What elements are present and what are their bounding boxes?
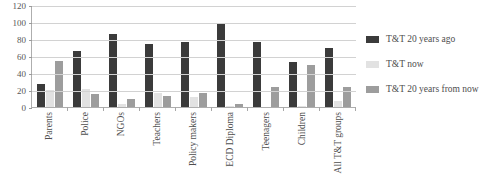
- bar: [118, 104, 126, 107]
- bar: [127, 99, 135, 108]
- x-tick-label: Police: [80, 112, 90, 136]
- y-tick-mark: [29, 23, 32, 24]
- x-label-cell: Teenagers: [248, 110, 284, 184]
- bar: [55, 61, 63, 107]
- bar: [163, 96, 171, 107]
- x-tick-label: Parents: [44, 112, 54, 140]
- x-tick-label: NGOs: [116, 112, 126, 136]
- bar: [217, 24, 225, 107]
- y-tick-label: 40: [17, 70, 26, 79]
- bar: [190, 97, 198, 107]
- bar: [109, 34, 117, 107]
- bar: [334, 101, 342, 107]
- x-tick-label: ECD Diploma: [225, 112, 235, 167]
- y-tick-mark: [29, 57, 32, 58]
- x-label-cell: Children: [284, 110, 320, 184]
- x-tick-label: Teachers: [152, 112, 162, 146]
- y-tick-mark: [29, 6, 32, 7]
- y-tick-label: 0: [22, 104, 27, 113]
- plot-area: [31, 6, 356, 108]
- x-label-cell: Police: [67, 110, 103, 184]
- medium-swatch-icon: [366, 86, 379, 93]
- bar: [307, 65, 315, 107]
- dark-swatch-icon: [366, 36, 379, 43]
- gridline: [32, 57, 356, 58]
- y-tick-label: 100: [13, 19, 27, 28]
- bar: [343, 87, 351, 107]
- legend-item[interactable]: T&T 20 years from now: [366, 80, 494, 98]
- bar: [154, 93, 162, 107]
- x-tick-label: Policy makers: [188, 112, 198, 166]
- y-axis: 020406080100120: [0, 0, 30, 108]
- legend-label: T&T 20 years ago: [386, 34, 455, 44]
- bar-chart: 020406080100120 ParentsPoliceNGOsTeacher…: [0, 0, 495, 184]
- bar: [73, 51, 81, 107]
- bar: [46, 90, 54, 107]
- x-label-cell: Parents: [31, 110, 67, 184]
- x-label-cell: All T&T groups: [320, 110, 356, 184]
- bar: [289, 62, 297, 107]
- chart-legend: T&T 20 years agoT&T nowT&T 20 years from…: [366, 30, 494, 105]
- gridline: [32, 74, 356, 75]
- y-tick-label: 20: [17, 87, 26, 96]
- x-tick-label: All T&T groups: [333, 112, 343, 173]
- y-tick-mark: [29, 108, 32, 109]
- x-label-cell: Teachers: [139, 110, 175, 184]
- x-tick-label: Teenagers: [261, 112, 271, 150]
- x-label-cell: ECD Diploma: [212, 110, 248, 184]
- bar: [91, 94, 99, 107]
- gridline: [32, 23, 356, 24]
- x-label-cell: Policy makers: [175, 110, 211, 184]
- x-axis: ParentsPoliceNGOsTeachersPolicy makersEC…: [31, 110, 356, 184]
- y-tick-label: 80: [17, 36, 26, 45]
- gridline: [32, 6, 356, 7]
- legend-item[interactable]: T&T 20 years ago: [366, 30, 494, 48]
- y-tick-mark: [29, 91, 32, 92]
- bar: [37, 84, 45, 107]
- bar: [145, 44, 153, 107]
- bar: [226, 106, 234, 107]
- bar: [199, 93, 207, 107]
- y-tick-label: 120: [13, 2, 27, 11]
- y-tick-mark: [29, 40, 32, 41]
- x-tick-label: Children: [297, 112, 307, 145]
- bar: [235, 104, 243, 107]
- gridline: [32, 40, 356, 41]
- y-tick-mark: [29, 74, 32, 75]
- x-label-cell: NGOs: [103, 110, 139, 184]
- bar: [298, 106, 306, 107]
- y-tick-label: 60: [17, 53, 26, 62]
- light-swatch-icon: [366, 61, 379, 68]
- legend-label: T&T now: [386, 59, 424, 69]
- legend-item[interactable]: T&T now: [366, 55, 494, 73]
- gridline: [32, 91, 356, 92]
- legend-label: T&T 20 years from now: [386, 84, 479, 94]
